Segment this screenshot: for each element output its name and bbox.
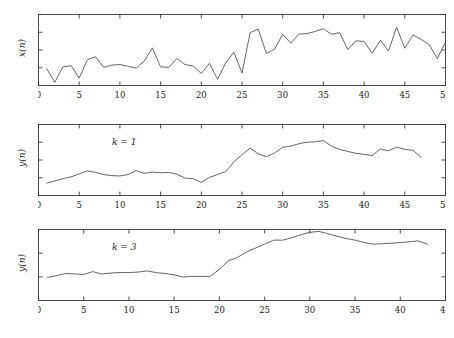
x-tick-label: 0 bbox=[38, 90, 41, 100]
x-tick-label: 10 bbox=[114, 200, 125, 210]
x-tick-label: 5 bbox=[76, 90, 81, 100]
x-tick-label: 10 bbox=[124, 305, 135, 315]
x-tick-label: 20 bbox=[196, 200, 207, 210]
data-series-line bbox=[47, 27, 446, 82]
data-series-line bbox=[47, 140, 421, 183]
x-tick-label: 30 bbox=[277, 90, 288, 100]
plot-area-top: 0510152025303540455001234 bbox=[38, 12, 446, 108]
x-tick-label: 45 bbox=[399, 200, 410, 210]
x-tick-label: 35 bbox=[318, 200, 329, 210]
x-tick-label: 50 bbox=[440, 90, 446, 100]
x-tick-label: 40 bbox=[395, 305, 406, 315]
x-tick-label: 10 bbox=[114, 90, 125, 100]
plot-area-middle: 0510152025303540455001234 bbox=[38, 122, 446, 218]
subplot-y-n-k3: 0510152025303540450123 bbox=[38, 227, 446, 323]
plot-area-bottom: 0510152025303540450123 bbox=[38, 227, 446, 323]
x-tick-label: 45 bbox=[440, 305, 446, 315]
x-tick-label: 15 bbox=[155, 90, 166, 100]
x-tick-label: 25 bbox=[237, 90, 248, 100]
x-tick-label: 20 bbox=[214, 305, 225, 315]
x-tick-label: 15 bbox=[155, 200, 166, 210]
x-tick-label: 30 bbox=[277, 200, 288, 210]
x-tick-label: 40 bbox=[359, 200, 370, 210]
x-tick-label: 25 bbox=[259, 305, 270, 315]
y-axis-label-middle: y(n) bbox=[17, 140, 27, 176]
data-series-line bbox=[48, 231, 428, 277]
x-tick-label: 25 bbox=[237, 200, 248, 210]
x-tick-label: 35 bbox=[318, 90, 329, 100]
x-tick-label: 45 bbox=[399, 90, 410, 100]
x-tick-label: 0 bbox=[38, 305, 41, 315]
x-tick-label: 15 bbox=[169, 305, 180, 315]
subplot-x-n: 0510152025303540455001234 bbox=[38, 12, 446, 108]
x-tick-label: 5 bbox=[76, 200, 81, 210]
x-tick-label: 5 bbox=[81, 305, 86, 315]
x-tick-label: 50 bbox=[440, 200, 446, 210]
y-axis-label-bottom: y(n) bbox=[17, 245, 27, 281]
x-tick-label: 35 bbox=[350, 305, 361, 315]
y-axis-label-top: x(n) bbox=[17, 30, 27, 66]
annotation-k-3: k = 3 bbox=[112, 242, 136, 252]
subplot-y-n-k1: 0510152025303540455001234 bbox=[38, 122, 446, 218]
x-tick-label: 30 bbox=[304, 305, 315, 315]
x-tick-label: 0 bbox=[38, 200, 41, 210]
annotation-k-1: k = 1 bbox=[112, 137, 136, 147]
figure-container: 0510152025303540455001234 x(n) 051015202… bbox=[0, 0, 454, 338]
x-tick-label: 20 bbox=[196, 90, 207, 100]
x-tick-label: 40 bbox=[359, 90, 370, 100]
